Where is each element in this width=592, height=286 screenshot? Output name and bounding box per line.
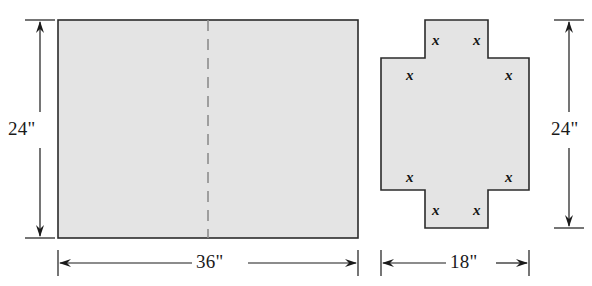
rectangle-sheet: [58, 20, 358, 238]
left-height-label: 24": [8, 118, 35, 140]
corner-label-lower-right: x: [505, 169, 513, 186]
cross-shape: [381, 20, 529, 228]
left-figure-group: [58, 20, 358, 238]
corner-label-lower-left: x: [406, 169, 414, 186]
right-height-label: 24": [551, 118, 578, 140]
corner-label-bottom-left: x: [432, 202, 440, 219]
left-width-label: 36": [196, 251, 223, 273]
diagram-canvas: 24" 36" 24" 18" x x x x x x x x: [0, 0, 592, 286]
corner-label-top-left: x: [432, 32, 440, 49]
corner-label-top-right: x: [473, 32, 481, 49]
corner-label-upper-left: x: [406, 67, 414, 84]
right-figure-group: [381, 20, 529, 228]
corner-label-upper-right: x: [505, 67, 513, 84]
right-width-label: 18": [450, 251, 477, 273]
corner-label-bottom-right: x: [473, 202, 481, 219]
geometry-diagram-svg: [0, 0, 592, 286]
